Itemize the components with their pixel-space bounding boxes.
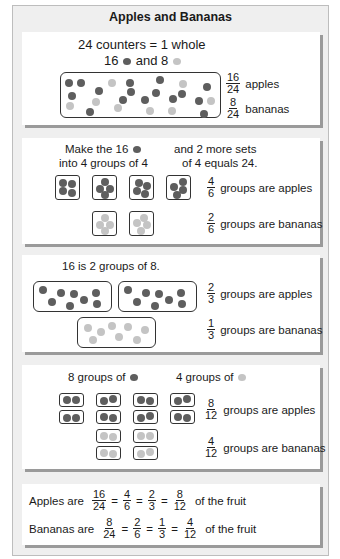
- banana-counter: [207, 97, 215, 105]
- banana-counter-icon: [173, 58, 181, 65]
- apple-counter-icon: [133, 146, 141, 153]
- banana-counter: [168, 107, 176, 115]
- more-sets-line2: of 4 equals 24.: [182, 157, 257, 169]
- panel-counters-whole: 24 counters = 1 whole 16 and 8 16: [22, 32, 320, 125]
- make-16-line1: Make the 16: [65, 143, 142, 155]
- apple-group-of-4: [55, 175, 80, 200]
- bananas-fraction-label: 412 groups are bananas: [202, 436, 326, 459]
- apple-counter: [178, 90, 186, 98]
- apples-fraction-label: 23 groups are apples: [205, 282, 312, 305]
- apple-group-of-8: [118, 281, 197, 312]
- fraction: 26: [207, 212, 215, 235]
- apple-pair: [170, 393, 195, 407]
- apples-fraction-label: 812 groups are apples: [202, 398, 315, 421]
- banana-counter: [92, 98, 100, 106]
- apple-group-of-4: [166, 175, 191, 200]
- apple-counter: [119, 96, 127, 104]
- bananas-fraction-label: 824 bananas: [224, 97, 289, 120]
- panel-summary: Apples are 1624 = 46 = 23 = 812 of the f…: [22, 484, 320, 545]
- panel-groups-of-2: 8 groups of 4 groups of 812 groups are a…: [22, 365, 320, 469]
- counters-group-24: [60, 72, 221, 118]
- banana-counter: [66, 102, 74, 110]
- panel-groups-of-8: 16 is 2 groups of 8. 23 groups are apple…: [22, 255, 320, 352]
- bananas-equivalence: Bananas are 824 = 26 = 13 = 412 of the f…: [29, 517, 256, 540]
- apple-counter-icon: [130, 374, 138, 381]
- apples-fraction-label: 1624 apples: [224, 72, 279, 95]
- fraction: 412: [204, 436, 218, 459]
- apple-counter: [77, 79, 85, 87]
- fraction: 824: [226, 97, 240, 120]
- apple-pair: [59, 410, 84, 424]
- apple-counter: [86, 108, 94, 116]
- apple-counter: [141, 96, 149, 104]
- apple-counter: [65, 79, 73, 87]
- banana-group-of-4: [129, 211, 154, 236]
- diagram-title: Apples and Bananas: [12, 10, 329, 24]
- apple-group-of-8: [33, 281, 112, 312]
- apple-counter: [195, 97, 203, 105]
- apple-counter: [203, 83, 211, 91]
- apple-pair: [170, 410, 195, 424]
- banana-group-of-4: [92, 211, 117, 236]
- fraction: 23: [207, 282, 215, 305]
- banana-counter: [108, 79, 116, 87]
- apple-pair: [133, 393, 158, 407]
- apple-counter-icon: [123, 58, 131, 65]
- banana-pair: [96, 429, 121, 443]
- apples-fraction-label: 46 groups are apples: [205, 176, 312, 199]
- banana-groups-heading: 4 groups of: [176, 371, 247, 383]
- fraction: 46: [207, 176, 215, 199]
- apple-counter: [127, 88, 135, 96]
- apple-counter: [126, 79, 134, 87]
- groups-of-8-heading: 16 is 2 groups of 8.: [62, 260, 160, 272]
- bananas-fraction-label: 13 groups are bananas: [205, 318, 322, 341]
- banana-pair: [133, 446, 158, 460]
- more-sets-line1: and 2 more sets: [174, 143, 256, 155]
- apple-counter: [169, 95, 177, 103]
- counts-statement: 16 and 8: [104, 53, 182, 68]
- apple-group-of-4: [129, 175, 154, 200]
- apple-counter: [95, 87, 103, 95]
- whole-statement: 24 counters = 1 whole: [78, 37, 206, 52]
- panel-groups-of-4: Make the 16 into 4 groups of 4 and 2 mor…: [22, 138, 320, 244]
- banana-counter: [179, 80, 187, 88]
- banana-counter: [146, 107, 154, 115]
- apple-counter: [68, 92, 76, 100]
- apple-group-of-4: [92, 175, 117, 200]
- apple-counter: [200, 110, 208, 118]
- apple-pair: [59, 393, 84, 407]
- bananas-fraction-label: 26 groups are bananas: [205, 212, 322, 235]
- apple-pair: [96, 410, 121, 424]
- fraction: 812: [204, 398, 218, 421]
- fraction: 13: [207, 318, 215, 341]
- banana-pair: [133, 429, 158, 443]
- banana-pair: [96, 446, 121, 460]
- apple-pair: [96, 393, 121, 407]
- banana-counter-icon: [238, 374, 246, 381]
- apples-equivalence: Apples are 1624 = 46 = 23 = 812 of the f…: [29, 489, 246, 512]
- banana-group-of-8: [77, 317, 156, 348]
- apple-pair: [133, 410, 158, 424]
- apple-counter: [152, 89, 160, 97]
- make-16-line2: into 4 groups of 4: [59, 157, 148, 169]
- apple-counter: [156, 76, 164, 84]
- apple-groups-heading: 8 groups of: [68, 371, 139, 383]
- fraction: 1624: [226, 72, 240, 95]
- banana-counter: [114, 104, 122, 112]
